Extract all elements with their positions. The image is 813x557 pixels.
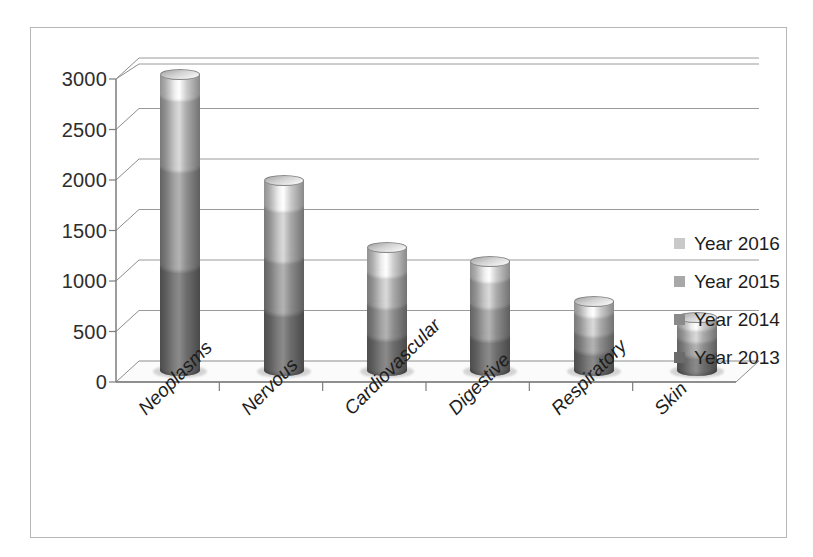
legend-swatch-icon [674,352,685,363]
legend-label: Year 2013 [694,348,780,367]
category-label: Cardiovascular [340,314,445,419]
legend-label: Year 2015 [694,272,780,291]
chart-legend: Year 2016Year 2015Year 2014Year 2013 [674,224,804,376]
legend-swatch-icon [674,238,685,249]
category-label: Respiratory [547,335,631,419]
category-label: Digestive [444,349,515,420]
legend-swatch-icon [674,314,685,325]
legend-item[interactable]: Year 2014 [674,300,804,338]
legend-label: Year 2016 [694,234,780,253]
category-label: Neoplasms [134,337,217,420]
legend-label: Year 2014 [694,310,780,329]
legend-swatch-icon [674,276,685,287]
chart-frame: 300025002000150010005000 NeoplasmsNervou… [30,27,787,538]
legend-item[interactable]: Year 2015 [674,262,804,300]
category-label: Nervous [237,354,303,420]
legend-item[interactable]: Year 2016 [674,224,804,262]
legend-item[interactable]: Year 2013 [674,338,804,376]
category-label: Skin [650,378,692,420]
category-labels: NeoplasmsNervousCardiovascularDigestiveR… [31,28,786,537]
plot-area: 300025002000150010005000 NeoplasmsNervou… [31,28,786,537]
